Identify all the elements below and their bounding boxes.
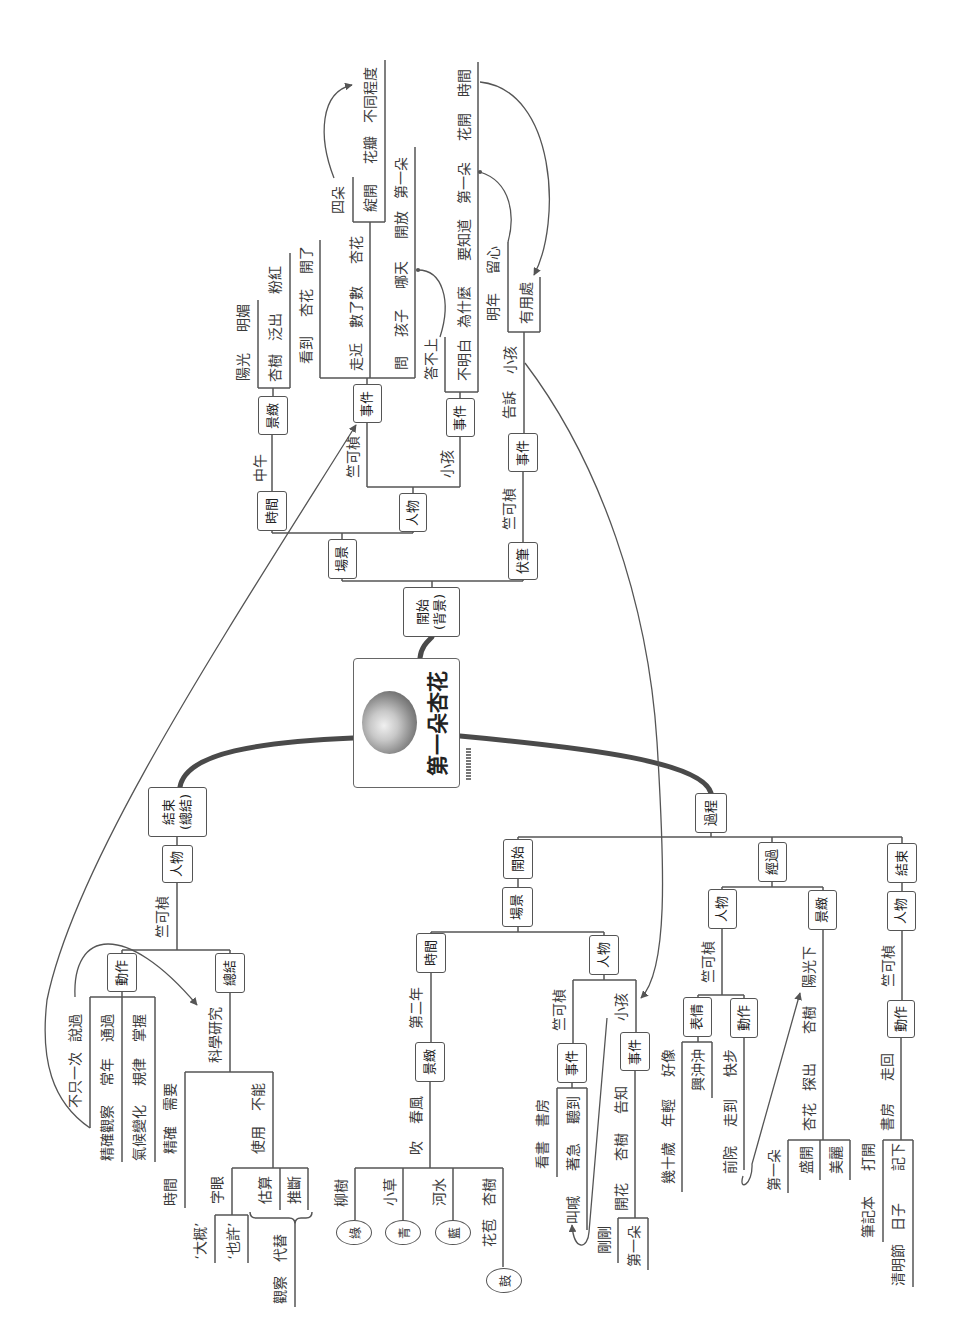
- state-oval-swell: 鼓: [486, 1268, 522, 1293]
- branch-word: 小孩: [503, 346, 517, 374]
- node-label: 總結: [222, 960, 238, 986]
- node-sublabel: (總結): [178, 794, 194, 830]
- node-label: 時間: [423, 940, 439, 966]
- branch-word: 陽光: [236, 353, 250, 381]
- person-name: 竺可楨: [155, 896, 169, 938]
- branch-word: 小草: [383, 1178, 397, 1206]
- branch-word: 筆記本: [861, 1196, 875, 1238]
- branch-word: 說過: [68, 1014, 82, 1042]
- branch-word: 四朵: [331, 186, 345, 214]
- branch-word: 杏花: [349, 236, 363, 264]
- branch-word: 氣候變化: [132, 1105, 146, 1161]
- node-label: 動作: [736, 1005, 752, 1031]
- branch-word: 代替: [273, 1234, 287, 1262]
- branch-word: 綻開: [363, 184, 377, 212]
- branch-word: 觀察: [273, 1276, 287, 1304]
- branch-word: 花苞: [482, 1219, 496, 1247]
- branch-word: 杏樹: [268, 354, 282, 382]
- node-label: 事件: [452, 405, 468, 431]
- branch-word: 美麗: [829, 1146, 843, 1174]
- node-label: 事件: [515, 440, 531, 466]
- branch-word: 要知道: [457, 219, 471, 261]
- branch-word: 不只一次: [68, 1052, 82, 1108]
- node-time: 時間: [416, 933, 446, 973]
- branch-word: 泛出: [268, 313, 282, 341]
- node-label: 人物: [893, 898, 909, 924]
- branch-word: 叫喊: [566, 1196, 580, 1224]
- node-action: 動作: [730, 998, 758, 1038]
- branch-word: 興沖沖: [691, 1049, 705, 1091]
- node-label: 表情: [689, 1004, 705, 1030]
- person-name: 竺可楨: [502, 488, 516, 530]
- node-summary: 總結: [215, 953, 245, 993]
- node-label: 人物: [714, 896, 730, 922]
- branch-word: 孩子: [394, 309, 408, 337]
- branch-word: 哪天: [394, 261, 408, 289]
- branch-word: 不能: [251, 1083, 265, 1111]
- node-event-foreshadow: 事件: [508, 433, 538, 472]
- node-label: 景緻: [422, 1049, 438, 1075]
- branch-word: 好像: [661, 1049, 675, 1077]
- branch-word: 杏花: [802, 1103, 816, 1131]
- node-action: 動作: [887, 1000, 915, 1038]
- branch-word: 告知: [614, 1086, 628, 1114]
- color-oval-blue: 藍: [435, 1220, 471, 1245]
- node-label: 事件: [627, 1039, 643, 1065]
- branch-word: 書房: [535, 1099, 549, 1127]
- node-people: 人物: [399, 493, 427, 532]
- mindmap-canvas: 第一朵杏花 開始 (背景) 場景 伏筆 時間 人物 景緻 事件 事件 事件 中午…: [0, 0, 957, 1342]
- node-scenery: 景緻: [808, 890, 837, 930]
- branch-word: 時間: [457, 69, 471, 97]
- branch-word: 探出: [802, 1063, 816, 1091]
- node-event-child: 事件: [620, 1032, 650, 1071]
- branch-word: 走回: [880, 1053, 894, 1081]
- central-topic-title: 第一朵杏花: [428, 671, 449, 776]
- node-label: 人物: [596, 942, 612, 968]
- node-people: 人物: [708, 889, 737, 929]
- node-label: 人物: [405, 500, 421, 526]
- person-name: 小孩: [614, 993, 628, 1021]
- branch-word: 吹: [409, 1141, 423, 1155]
- person-name: 竺可楨: [701, 941, 715, 983]
- branch-word: 精確: [163, 1126, 177, 1154]
- node-label: 伏筆: [515, 548, 531, 574]
- apricot-blossom-photo: [362, 691, 417, 754]
- summary-topic: 科學研究: [208, 1007, 222, 1063]
- node-action: 動作: [107, 953, 137, 992]
- node-label: 時間: [264, 498, 280, 524]
- branch-word: 前院: [723, 1146, 737, 1174]
- branch-word: 花開: [457, 113, 471, 141]
- person-name: 小孩: [440, 450, 454, 478]
- node-label: 開始: [415, 599, 431, 625]
- node-label: 事件: [359, 391, 375, 417]
- branch-word: 答不上: [424, 338, 438, 380]
- branch-word: 字眼: [210, 1176, 224, 1204]
- branch-word: 花瓣: [363, 136, 377, 164]
- branch-word: 不明白: [457, 339, 471, 381]
- branch-word: 掌握: [132, 1014, 146, 1042]
- branch-word: 估算: [258, 1176, 272, 1204]
- node-label: 人物: [169, 851, 185, 877]
- branch-word: 柳樹: [334, 1179, 348, 1207]
- node-label: 過程: [703, 800, 719, 826]
- color-oval-cyan: 青: [385, 1220, 421, 1245]
- branch-word: 粉紅: [268, 266, 282, 294]
- node-expression: 表情: [683, 997, 712, 1037]
- branch-word: 告訴: [502, 391, 516, 419]
- branch-word: 走近: [349, 343, 363, 371]
- time-value: 第二年: [409, 987, 423, 1029]
- node-people: 人物: [589, 935, 619, 975]
- branch-word: 開花: [614, 1183, 628, 1211]
- node-label: 結束: [894, 850, 910, 876]
- branch-word: 著急: [566, 1143, 580, 1171]
- caption-mark: [466, 748, 471, 780]
- branch-word: 通過: [100, 1014, 114, 1042]
- branch-word: 開放: [394, 211, 408, 239]
- branch-word: 需要: [163, 1083, 177, 1111]
- branch-word: 記下: [891, 1143, 905, 1171]
- branch-word: 盛開: [799, 1146, 813, 1174]
- node-event-zhu: 事件: [557, 1043, 587, 1083]
- branch-word: 杏花: [299, 289, 313, 317]
- node-event-zhu: 事件: [353, 384, 382, 423]
- node-label: 結束: [161, 799, 177, 825]
